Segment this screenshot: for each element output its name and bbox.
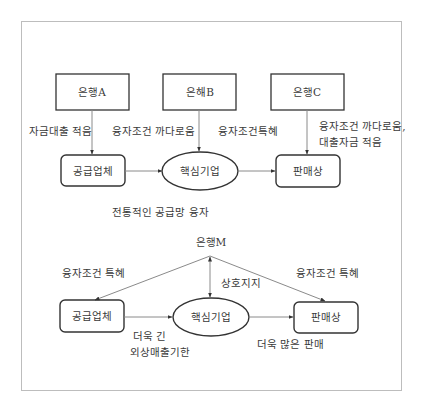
bottom-core-label: 핵심기업 — [191, 310, 231, 324]
diagram-canvas — [0, 0, 423, 412]
bank-a-label: 은행A — [78, 85, 106, 99]
mutual-support-label: 상호지지 — [221, 276, 261, 290]
bank-b-right-edge-label: 융자조건특혜 — [218, 124, 278, 138]
bank-c-edge-label-line1: 융자조건 까다로움, — [319, 119, 406, 133]
bank-m-label: 은행M — [196, 235, 227, 249]
supplier-core-edge-label-line2: 외상매출기한 — [130, 345, 190, 359]
supplier-core-edge-label-line1: 더욱 긴 — [133, 329, 166, 343]
bottom-retailer-label: 판매상 — [311, 310, 341, 324]
top-supplier-label: 공급업체 — [73, 164, 113, 178]
traditional-caption: 전통적인 공급망 융자 — [112, 205, 209, 219]
core-retailer-edge-label: 더욱 많은 판매 — [257, 337, 324, 351]
bank-b-left-edge-label: 융자조건 까다로움 — [112, 124, 195, 138]
bank-a-edge-label: 자금대출 적음 — [29, 124, 92, 138]
bank-c-edge-label-line2: 대출자금 적음 — [319, 135, 382, 149]
bank-c-label: 은행C — [293, 85, 321, 99]
top-retailer-label: 판매상 — [293, 164, 323, 178]
right-edge-label: 융자조건 특혜 — [296, 266, 359, 280]
bank-b-label: 은해B — [186, 85, 214, 99]
left-edge-label: 융자조건 특혜 — [62, 266, 125, 280]
top-core-label: 핵심기업 — [180, 164, 220, 178]
bottom-supplier-label: 공급업체 — [72, 309, 112, 323]
